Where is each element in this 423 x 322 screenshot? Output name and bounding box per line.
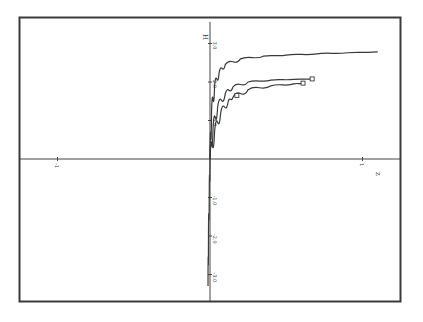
y-tick-label: 3.0 (212, 42, 218, 50)
x-tick-label: 1 (359, 163, 365, 166)
series-line (210, 79, 312, 159)
y-tick-label: -2.0 (212, 234, 218, 244)
x-axis-label: z (374, 172, 382, 176)
chart: 3.02.01.0-1.0-2.0-3.0 -11 H z (0, 0, 423, 322)
x-tick-label: -1 (54, 163, 60, 168)
series-group (208, 52, 378, 286)
y-tick-label: -1.0 (212, 196, 218, 206)
series-line (210, 52, 378, 159)
y-tick-label: -3.0 (212, 273, 218, 283)
y-axis-label: H (201, 34, 209, 40)
square-marker (310, 77, 314, 81)
square-marker (301, 81, 305, 85)
square-marker (235, 93, 239, 97)
series-line (210, 83, 303, 159)
